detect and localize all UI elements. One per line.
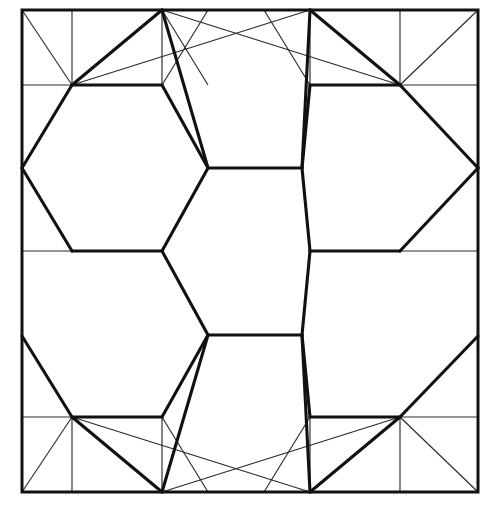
hexagon-tiling-figure [0, 0, 497, 510]
diagram-canvas [0, 0, 497, 510]
